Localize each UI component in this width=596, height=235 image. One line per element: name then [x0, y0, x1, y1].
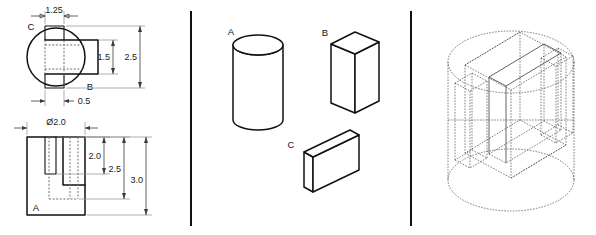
solid-c-plate: C	[288, 130, 359, 192]
dim-3-0: 3.0	[87, 137, 152, 215]
dim-1-5-arrow-top	[111, 40, 115, 46]
front-view: A Ø2.0 2.0	[14, 117, 152, 215]
front-view-prism-b	[63, 137, 85, 185]
iso-slab-left-top-face	[455, 73, 487, 91]
dim-2-5-top-text: 2.5	[124, 52, 137, 62]
dim-1-25: 1.25	[31, 5, 78, 24]
iso-plate-c	[489, 44, 561, 163]
figure-canvas: C B 1.25	[0, 0, 596, 235]
solid-a-cylinder: A	[228, 26, 283, 130]
solid-c-label: C	[288, 139, 295, 150]
dim-2-0-text: 2.0	[88, 151, 101, 161]
dim-2-5-front-arrow-bottom	[122, 193, 126, 199]
cylinder-body	[233, 45, 283, 130]
iso-cylinder	[448, 31, 574, 211]
dim-diameter-text: Ø2.0	[46, 117, 66, 127]
top-view-label-c: C	[28, 21, 35, 32]
iso-chord-lower-right	[511, 145, 566, 178]
top-view-label-b: B	[87, 81, 93, 92]
dim-0-5-text: 0.5	[78, 96, 91, 106]
dim-diameter-arrow-right	[85, 126, 90, 130]
dim-3-0-arrow-bottom	[144, 209, 148, 215]
iso-cylinder-top-ellipse	[448, 31, 574, 93]
dim-1-25-text: 1.25	[45, 5, 63, 15]
dim-2-5-top-arrow-bottom	[138, 82, 142, 88]
technical-drawing-svg: C B 1.25	[0, 0, 596, 235]
dim-1-5-arrow-bottom	[111, 68, 115, 74]
dim-3-0-text: 3.0	[130, 175, 143, 185]
plate-c-left-face	[304, 152, 313, 192]
dim-2-0-arrow-bottom	[102, 168, 106, 174]
iso-plate-c-bottom-face	[489, 121, 561, 163]
solid-b-label: B	[322, 27, 328, 38]
dim-3-0-arrow-top	[144, 137, 148, 143]
solid-a-label: A	[228, 26, 235, 37]
dim-2-0: 2.0	[57, 137, 110, 174]
dim-diameter: Ø2.0	[14, 117, 98, 135]
dim-0-5-arrow-left	[40, 99, 45, 103]
dim-2-5-top-arrow-top	[138, 26, 142, 32]
dim-2-0-arrow-top	[102, 137, 106, 143]
iso-slab-left	[455, 73, 487, 168]
dim-1-5: 1.5	[97, 40, 118, 74]
top-view-circle	[27, 28, 85, 86]
top-view: C B 1.25	[27, 5, 145, 106]
prism-b-front-face	[331, 44, 355, 113]
panel-isometric-assembly	[448, 31, 574, 211]
dim-0-5: 0.5	[31, 90, 90, 106]
solid-b-prism: B	[322, 27, 379, 113]
front-view-label-a: A	[33, 202, 40, 213]
panel-component-solids: A B C	[228, 26, 379, 192]
dim-2-5-front-arrow-top	[122, 137, 126, 143]
dim-2-5-front-text: 2.5	[108, 164, 121, 174]
dim-1-5-text: 1.5	[97, 52, 110, 62]
dim-diameter-arrow-left	[22, 126, 27, 130]
iso-plate-c-top-face	[489, 44, 561, 86]
dim-0-5-arrow-right	[64, 99, 69, 103]
front-view-rib-c	[45, 137, 56, 174]
panel-orthographic-views: C B 1.25	[14, 5, 152, 215]
